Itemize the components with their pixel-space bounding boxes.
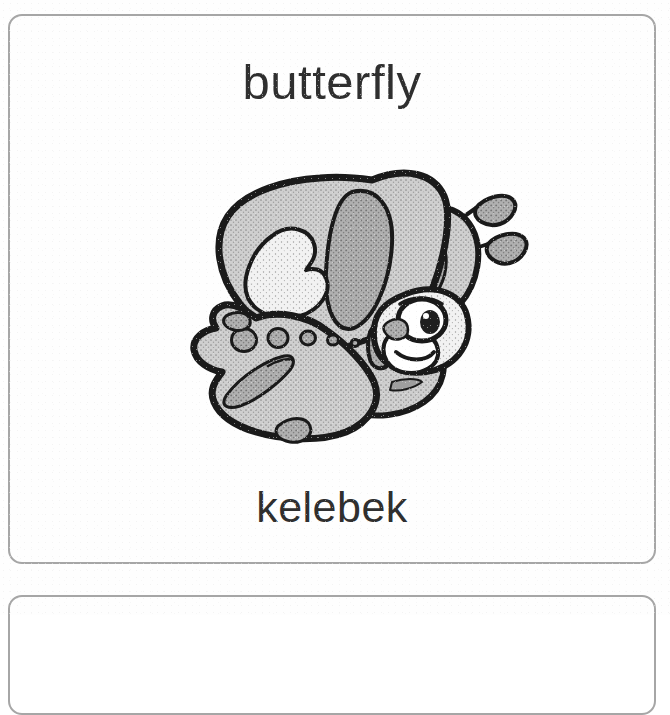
antenna-tip-lower bbox=[487, 234, 527, 264]
butterfly-pupil bbox=[420, 310, 440, 334]
butterfly-illustration bbox=[160, 144, 540, 454]
butterfly-cheek bbox=[384, 319, 409, 339]
flashcard-butterfly[interactable]: butterfly bbox=[8, 14, 656, 564]
antenna-tip-upper bbox=[475, 196, 515, 225]
flashcard-next[interactable] bbox=[8, 595, 656, 715]
butterfly-eye-glint bbox=[423, 313, 429, 319]
wing-lower-left-nub-top bbox=[224, 313, 251, 331]
card-turkish-word: kelebek bbox=[10, 482, 654, 532]
wing-lower-left-nub bbox=[276, 419, 311, 443]
card-english-word: butterfly bbox=[10, 54, 654, 110]
